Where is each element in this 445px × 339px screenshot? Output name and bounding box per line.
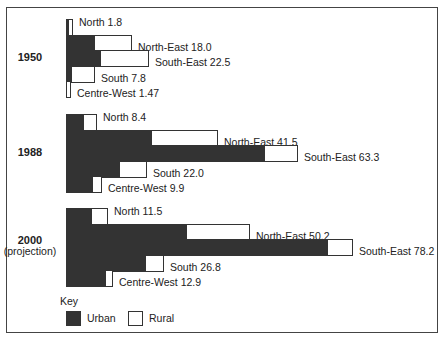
bar-2000-north (66, 208, 108, 225)
bar-value-label: North-East 18.0 (138, 41, 212, 54)
urban-segment (66, 145, 265, 162)
year-label-1988: 1988 (0, 146, 60, 158)
bar-value-label: Centre-West 9.9 (108, 182, 184, 195)
bar-value-label: South-East 63.3 (304, 151, 379, 164)
urban-segment (66, 81, 67, 98)
bar-1950-north (66, 19, 73, 36)
bar-value-label: South-East 22.5 (155, 56, 230, 69)
bar-value-label: North 8.4 (103, 111, 146, 124)
urban-segment (66, 176, 93, 193)
bar-1988-south-east (66, 145, 298, 162)
bar-value-label: South 22.0 (153, 167, 204, 180)
legend-rural-label: Rural (149, 312, 174, 324)
year-sublabel: (projection) (0, 245, 60, 257)
bar-value-label: South 7.8 (101, 72, 146, 85)
year-text: 2000 (18, 234, 42, 246)
bar-1950-south-east (66, 50, 149, 67)
urban-segment (66, 270, 106, 287)
bar-value-label: North 1.8 (79, 16, 122, 29)
year-text: 1950 (18, 51, 42, 63)
bar-2000-south-east (66, 239, 353, 256)
urban-segment (66, 19, 69, 36)
bar-value-label: Centre-West 1.47 (77, 87, 159, 100)
legend-urban-label: Urban (87, 312, 116, 324)
bar-1988-north (66, 114, 97, 131)
urban-segment (66, 239, 328, 256)
legend-title: Key (60, 295, 78, 307)
legend-rural-swatch (128, 311, 143, 326)
bar-value-label: South 26.8 (170, 261, 221, 274)
bar-2000-centre-west (66, 270, 113, 287)
year-label-2000: 2000(projection) (0, 234, 60, 257)
urban-segment (66, 114, 84, 131)
year-text: 1988 (18, 146, 42, 158)
bar-1950-centre-west (66, 81, 71, 98)
year-label-1950: 1950 (0, 51, 60, 63)
bar-value-label: South-East 78.2 (359, 245, 434, 258)
bar-1988-centre-west (66, 176, 102, 193)
bar-value-label: North 11.5 (114, 205, 162, 218)
urban-segment (66, 208, 92, 225)
urban-segment (66, 50, 101, 67)
legend-urban-swatch (66, 311, 81, 326)
bar-value-label: Centre-West 12.9 (119, 276, 201, 289)
